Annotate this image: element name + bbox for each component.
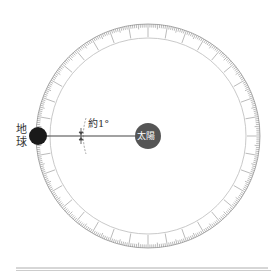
earth-label: 地 球	[16, 123, 27, 149]
earth-label-line2: 球	[16, 136, 27, 149]
orbit-diagram	[0, 0, 271, 271]
earth-icon	[29, 127, 47, 145]
sun-label: 太陽	[137, 130, 155, 143]
earth-label-line1: 地	[16, 123, 27, 136]
angle-label: 約1°	[88, 117, 109, 130]
